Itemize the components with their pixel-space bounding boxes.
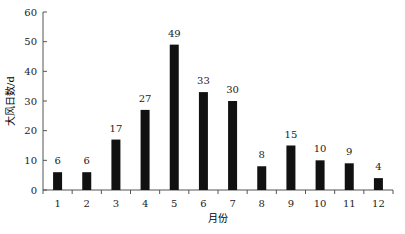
bar <box>257 166 266 190</box>
bar-value-label: 15 <box>285 129 298 140</box>
y-tick-label: 0 <box>31 185 37 196</box>
bars: 6617274933308151094 <box>53 28 383 190</box>
bar-value-label: 6 <box>54 155 60 166</box>
y-tick-label: 50 <box>24 36 37 47</box>
x-tick-label: 8 <box>259 198 265 209</box>
bar <box>82 172 91 190</box>
bar <box>345 163 354 190</box>
bar-value-label: 9 <box>346 146 352 157</box>
x-tick-label: 6 <box>200 198 206 209</box>
bar-chart: 0102030405060123456789101112 66172749333… <box>0 0 405 234</box>
x-tick-label: 2 <box>84 198 90 209</box>
bar-value-label: 10 <box>314 143 327 154</box>
bar <box>170 45 179 190</box>
x-tick-label: 9 <box>288 198 294 209</box>
bar <box>316 160 325 190</box>
y-tick-label: 30 <box>24 96 37 107</box>
x-tick-label: 12 <box>372 198 385 209</box>
x-tick-label: 10 <box>314 198 327 209</box>
bar-value-label: 30 <box>226 84 239 95</box>
bar-value-label: 27 <box>139 93 152 104</box>
bar <box>53 172 62 190</box>
bar-value-label: 49 <box>168 28 181 39</box>
x-tick-label: 4 <box>142 198 148 209</box>
bar-value-label: 8 <box>259 149 265 160</box>
bar <box>199 92 208 190</box>
y-tick-label: 40 <box>24 66 37 77</box>
x-tick-label: 7 <box>229 198 235 209</box>
axes: 0102030405060123456789101112 <box>24 7 393 210</box>
y-axis-label: 大风日数/d <box>4 76 16 126</box>
bar-value-label: 17 <box>110 123 123 134</box>
bar <box>286 146 295 191</box>
x-tick-label: 11 <box>343 198 356 209</box>
bar <box>228 101 237 190</box>
y-tick-label: 20 <box>24 125 37 136</box>
bar-value-label: 4 <box>375 161 381 172</box>
bar <box>111 140 120 190</box>
y-tick-label: 10 <box>24 155 37 166</box>
bar <box>141 110 150 190</box>
y-tick-label: 60 <box>24 7 37 18</box>
x-axis-label: 月份 <box>208 213 228 224</box>
x-tick-label: 1 <box>54 198 60 209</box>
bar-value-label: 33 <box>197 75 210 86</box>
bar-value-label: 6 <box>84 155 90 166</box>
x-tick-label: 3 <box>113 198 119 209</box>
x-tick-label: 5 <box>171 198 177 209</box>
bar <box>374 178 383 190</box>
